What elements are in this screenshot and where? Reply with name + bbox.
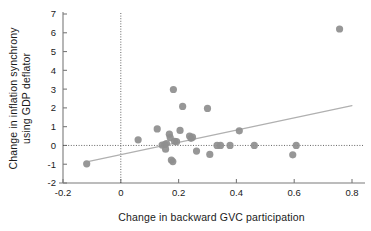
data-point	[217, 142, 224, 149]
data-point	[179, 103, 186, 110]
x-tick-label: 0.4	[230, 187, 243, 198]
y-axis-title-line-1: Change in inflation synchrony	[7, 27, 19, 170]
data-point	[206, 151, 213, 158]
x-tick-label: 0.8	[345, 187, 358, 198]
data-point	[251, 142, 258, 149]
x-tick-label: 0.2	[172, 187, 185, 198]
scatter-chart-figure: -0.200.20.40.60.8 -2-101234567 Change in…	[0, 0, 371, 231]
data-point	[236, 127, 243, 134]
data-point	[336, 25, 343, 32]
data-points	[83, 25, 343, 167]
y-tick-label: 7	[51, 8, 56, 19]
y-tick-label: -2	[48, 177, 56, 188]
data-point	[135, 136, 142, 143]
data-point	[204, 105, 211, 112]
y-axis-title: Change in inflation synchrony using GDP …	[7, 27, 32, 170]
x-axis-ticks: -0.200.20.40.60.8	[55, 179, 359, 198]
data-point	[173, 138, 180, 145]
y-tick-label: 0	[51, 140, 56, 151]
y-tick-label: 3	[51, 84, 56, 95]
data-point	[163, 140, 170, 147]
data-point	[83, 160, 90, 167]
data-point	[193, 147, 200, 154]
y-tick-label: 4	[51, 65, 56, 76]
x-tick-label: 0	[118, 187, 123, 198]
x-tick-label: -0.2	[55, 187, 71, 198]
x-axis-title: Change in backward GVC participation	[118, 211, 304, 223]
y-tick-label: 5	[51, 46, 56, 57]
data-point	[289, 151, 296, 158]
data-point	[176, 127, 183, 134]
data-point	[226, 142, 233, 149]
y-tick-label: 1	[51, 121, 56, 132]
linear-fit-line	[89, 106, 352, 162]
data-point	[170, 86, 177, 93]
y-tick-label: 6	[51, 27, 56, 38]
trendline-group	[89, 106, 352, 162]
chart-canvas: -0.200.20.40.60.8 -2-101234567 Change in…	[0, 0, 371, 231]
y-axis-title-line-2: using GDP deflator	[20, 53, 32, 145]
y-tick-label: -1	[48, 159, 56, 170]
data-point	[169, 158, 176, 165]
data-point	[154, 125, 161, 132]
y-tick-label: 2	[51, 102, 56, 113]
data-point	[189, 134, 196, 141]
axes	[59, 12, 365, 183]
x-tick-label: 0.6	[288, 187, 301, 198]
data-point	[293, 142, 300, 149]
y-axis-ticks: -2-101234567	[48, 8, 67, 188]
